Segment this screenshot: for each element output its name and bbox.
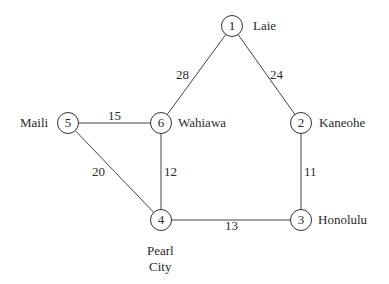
label-laie: Laie [253, 18, 276, 33]
node-6: 6 [150, 112, 172, 134]
label-wahiawa: Wahiawa [178, 115, 226, 130]
label-pearl-city-line2: City [149, 259, 171, 274]
edge-5-4 [68, 123, 161, 220]
label-pearl-city-line1: Pearl [147, 243, 174, 258]
node-5-id: 5 [57, 112, 79, 134]
label-honolulu: Honolulu [318, 212, 367, 227]
node-5: 5 [57, 112, 79, 134]
node-3-id: 3 [290, 209, 312, 231]
node-2-id: 2 [290, 112, 312, 134]
node-4-id: 4 [150, 209, 172, 231]
node-1: 1 [221, 15, 243, 37]
weight-5-4: 20 [92, 164, 105, 179]
node-3: 3 [290, 209, 312, 231]
node-1-id: 1 [221, 15, 243, 37]
weight-1-6: 28 [176, 67, 189, 82]
edge-1-2 [232, 26, 301, 123]
weight-2-3: 11 [304, 164, 317, 179]
weight-5-6: 15 [108, 108, 121, 123]
node-2: 2 [290, 112, 312, 134]
node-6-id: 6 [150, 112, 172, 134]
weight-1-2: 24 [270, 67, 283, 82]
label-maili: Maili [20, 115, 48, 130]
label-kaneohe: Kaneohe [319, 115, 365, 130]
edge-1-6 [161, 26, 232, 123]
weight-4-3: 13 [225, 218, 238, 233]
weight-6-4: 12 [164, 164, 177, 179]
node-4: 4 [150, 209, 172, 231]
graph-edges [0, 0, 389, 284]
